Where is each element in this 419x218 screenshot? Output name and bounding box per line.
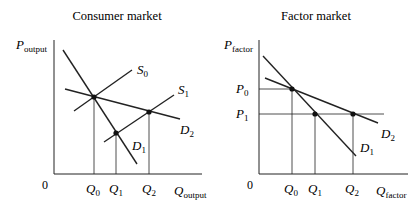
consumer-equilibrium-1 (113, 130, 118, 135)
factor-q0-label: Q0 (284, 181, 298, 198)
factor-d2-label: D2 (380, 126, 395, 143)
consumer-x-axis-label: Qoutput (174, 183, 207, 200)
consumer-s1-label: S1 (178, 82, 189, 99)
diagram-canvas: Consumer market Factor market Poutput Qo… (0, 0, 419, 218)
consumer-origin-label: 0 (42, 178, 48, 192)
factor-p1-label: P1 (235, 106, 248, 123)
consumer-equilibrium-2 (146, 109, 151, 114)
consumer-d2-curve (65, 89, 180, 119)
factor-market-title: Factor market (281, 9, 351, 23)
consumer-d1-label: D1 (131, 138, 146, 155)
consumer-market-title: Consumer market (72, 9, 162, 23)
factor-origin-label: 0 (247, 178, 253, 192)
consumer-d1-curve (63, 50, 137, 164)
consumer-q0-label: Q0 (86, 181, 100, 198)
factor-point-0 (289, 86, 294, 91)
consumer-y-axis-label: Poutput (15, 37, 47, 54)
factor-q2-label: Q2 (345, 181, 359, 198)
consumer-q2-label: Q2 (142, 181, 156, 198)
factor-d1-curve (263, 56, 356, 156)
consumer-equilibrium-0 (91, 94, 96, 99)
consumer-s0-label: S0 (137, 62, 149, 79)
factor-q1-label: Q1 (308, 181, 322, 198)
factor-d2-curve (265, 78, 378, 123)
consumer-d2-label: D2 (179, 122, 194, 139)
factor-point-1 (312, 111, 317, 116)
factor-p0-label: P0 (235, 81, 249, 98)
factor-x-axis-label: Qfactor (376, 183, 406, 200)
factor-point-2 (350, 111, 355, 116)
factor-d1-label: D1 (359, 140, 374, 157)
consumer-q1-label: Q1 (109, 181, 123, 198)
factor-y-axis-label: Pfactor (223, 37, 253, 54)
